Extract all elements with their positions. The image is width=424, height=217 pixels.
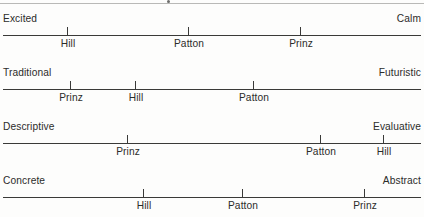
scale-left-anchor-label: Descriptive xyxy=(3,122,55,132)
scale-tick-mark xyxy=(383,135,384,144)
scale-tick-mark xyxy=(67,27,68,36)
scale-tick-mark xyxy=(364,189,365,198)
scale-tick-label: Prinz xyxy=(289,39,313,49)
scale-tick-label: Hill xyxy=(377,147,392,157)
scale-left-anchor-label: Concrete xyxy=(3,176,45,186)
scale-right-anchor-label: Calm xyxy=(397,14,421,24)
scale-tick-label: Patton xyxy=(239,93,269,103)
scale-tick-mark xyxy=(127,135,128,144)
scale-tick-mark xyxy=(143,189,144,198)
scale-tick-label: Hill xyxy=(61,39,76,49)
scale-tick-label: Hill xyxy=(129,93,144,103)
scale-axis-line xyxy=(3,197,421,198)
top-divider-rule xyxy=(0,3,424,4)
scale-tick-mark xyxy=(253,81,254,90)
scale-axis-line xyxy=(3,143,421,144)
scale-tick-label: Hill xyxy=(137,201,152,211)
scale-tick-label: Prinz xyxy=(116,147,140,157)
scale-tick-mark xyxy=(242,189,243,198)
scale-axis-line xyxy=(3,89,421,90)
scale-tick-label: Prinz xyxy=(353,201,377,211)
scale-right-anchor-label: Futuristic xyxy=(379,68,421,78)
semantic-differential-figure: ExcitedCalmHillPattonPrinz TraditionalFu… xyxy=(0,0,424,217)
page-speck-artifact xyxy=(167,0,170,3)
scale-tick-mark xyxy=(70,81,71,90)
scale-tick-label: Patton xyxy=(306,147,336,157)
scale-left-anchor-label: Excited xyxy=(3,14,37,24)
scale-right-anchor-label: Evaluative xyxy=(373,122,421,132)
scale-tick-label: Patton xyxy=(174,39,204,49)
scale-right-anchor-label: Abstract xyxy=(383,176,421,186)
scale-tick-label: Prinz xyxy=(59,93,83,103)
scale-tick-mark xyxy=(135,81,136,90)
scale-tick-mark xyxy=(188,27,189,36)
scale-tick-mark xyxy=(320,135,321,144)
scale-tick-label: Patton xyxy=(228,201,258,211)
scale-axis-line xyxy=(3,35,421,36)
scale-tick-mark xyxy=(300,27,301,36)
scale-left-anchor-label: Traditional xyxy=(3,68,51,78)
